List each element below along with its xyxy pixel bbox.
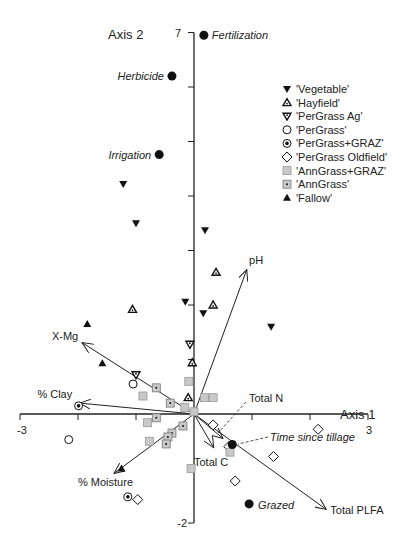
- data-point: [144, 419, 152, 427]
- vector-label: Total C: [194, 456, 228, 468]
- vector-arrow: [194, 414, 223, 439]
- legend-item: 'PerGrass': [283, 124, 347, 136]
- time-since-tillage-leader: [238, 437, 268, 444]
- data-point: [212, 268, 220, 275]
- data-point: [190, 408, 198, 416]
- time-since-tillage-label: Time since tillage: [270, 431, 355, 443]
- data-point: [166, 399, 174, 407]
- vector-label: Total PLFA: [330, 504, 384, 516]
- factor-point: [199, 31, 208, 40]
- vector-label: % Clay: [37, 388, 72, 400]
- data-point: [132, 220, 140, 227]
- factor-label: Irrigation: [108, 149, 151, 161]
- factor-label: Herbicide: [117, 70, 163, 82]
- legend-label: 'AnnGrass': [296, 178, 349, 190]
- x-tick-label-right: 3: [366, 424, 372, 436]
- vector-arrow: [194, 414, 214, 448]
- ordination-biplot: pHX-Mg% Clay% MoistureTotal PLFATotal C …: [0, 0, 407, 543]
- environment-vectors: pHX-Mg% Clay% MoistureTotal PLFATotal C: [37, 254, 384, 516]
- legend-label: 'PerGrass Oldfield': [296, 151, 387, 163]
- data-point: [184, 394, 192, 401]
- legend-item: 'PerGrass+GRAZ': [283, 137, 384, 149]
- total-n-label: Total N: [249, 392, 283, 404]
- data-point: [119, 181, 127, 188]
- x-tick-label-left: -3: [17, 424, 27, 436]
- legend-item: 'Vegetable': [283, 83, 349, 95]
- data-point: [200, 394, 208, 402]
- data-point: [201, 227, 209, 234]
- factor-label: Fertilization: [212, 29, 268, 41]
- data-point: [145, 437, 153, 445]
- x-axis-title: Axis 1: [340, 407, 375, 422]
- vector-arrow: [82, 343, 194, 414]
- data-point: [187, 465, 195, 473]
- factor-point: [167, 72, 176, 81]
- data-point: [152, 384, 160, 392]
- legend-item: 'PerGrass Oldfield': [282, 151, 387, 163]
- data-point: [133, 495, 143, 505]
- vector-label: pH: [249, 254, 263, 266]
- vector-arrow: [194, 270, 247, 414]
- data-point: [124, 493, 132, 501]
- legend-label: 'AnnGrass+GRAZ': [296, 165, 386, 177]
- y-tick-label-bottom: -2: [177, 517, 187, 529]
- data-point: [209, 394, 217, 402]
- legend-item: 'AnnGrass+GRAZ': [283, 165, 386, 177]
- factor-point: [228, 440, 237, 449]
- data-point: [152, 414, 160, 422]
- factor-point: [245, 499, 254, 508]
- legend-item: 'PerGrass Ag': [283, 110, 363, 122]
- data-point: [129, 305, 137, 312]
- factor-point: [155, 150, 164, 159]
- factor-points: FertilizationHerbicideIrrigationGrazed: [108, 29, 295, 511]
- legend-label: 'Hayfield': [296, 97, 340, 109]
- data-point: [75, 402, 83, 410]
- data-point: [98, 359, 106, 366]
- total-n-leader: [218, 402, 246, 433]
- factor-label: Grazed: [258, 499, 295, 511]
- data-point: [230, 476, 240, 486]
- legend-label: 'PerGrass': [296, 124, 347, 136]
- legend: 'Vegetable''Hayfield''PerGrass Ag''PerGr…: [282, 83, 387, 204]
- legend-item: 'Hayfield': [283, 97, 340, 109]
- legend-label: 'PerGrass+GRAZ': [296, 137, 384, 149]
- vector-arrow: [80, 403, 194, 414]
- y-axis-title: Axis 2: [108, 27, 143, 42]
- vector-label: % Moisture: [78, 476, 133, 488]
- data-point: [132, 372, 140, 379]
- data-point: [209, 301, 217, 308]
- data-point: [83, 320, 91, 327]
- vector-label: X-Mg: [52, 330, 78, 342]
- data-point: [179, 422, 187, 430]
- data-point: [139, 392, 147, 400]
- legend-label: 'Vegetable': [296, 83, 349, 95]
- data-point: [162, 440, 170, 448]
- legend-label: 'Fallow': [296, 192, 332, 204]
- y-tick-label-top: 7: [175, 27, 181, 39]
- data-point: [268, 452, 278, 462]
- data-point: [185, 377, 193, 385]
- data-point: [181, 403, 189, 411]
- data-point: [226, 448, 234, 456]
- legend-item: 'AnnGrass': [283, 178, 349, 190]
- data-point: [267, 324, 275, 331]
- legend-item: 'Fallow': [283, 192, 332, 204]
- data-point: [208, 420, 218, 430]
- data-point: [129, 380, 137, 388]
- legend-label: 'PerGrass Ag': [296, 110, 363, 122]
- data-point: [65, 436, 73, 444]
- data-point: [199, 310, 207, 317]
- data-point: [186, 341, 194, 348]
